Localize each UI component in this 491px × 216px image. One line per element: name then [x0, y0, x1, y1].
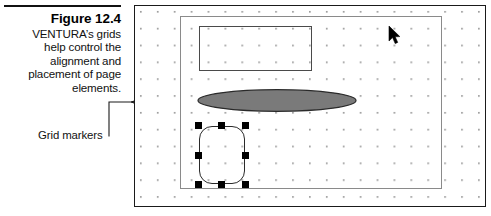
selection-handle-top-left[interactable] [195, 122, 202, 129]
grid-markers-label: Grid markers [38, 129, 103, 141]
caption-line: alignment and [4, 54, 121, 67]
selection-handle-middle-left[interactable] [195, 152, 202, 159]
selection-handle-bottom-center[interactable] [218, 181, 225, 188]
selection-handle-top-center[interactable] [218, 122, 225, 129]
figure-illustration: Figure 12.4 VENTURA’s grids help control… [0, 0, 491, 216]
selection-handle-bottom-right[interactable] [242, 181, 249, 188]
document-page-frame[interactable] [134, 5, 486, 207]
selection-handle-middle-right[interactable] [242, 152, 249, 159]
rounded-rectangle-graphic[interactable] [195, 122, 249, 188]
ellipse-graphic[interactable] [197, 89, 357, 112]
caption-line: VENTURA’s grids [4, 27, 121, 40]
caption-line: placement of page [4, 67, 121, 80]
caption-line: help control the [4, 40, 121, 53]
figure-caption-text: VENTURA’s grids help control the alignme… [4, 27, 121, 94]
mouse-pointer-icon [388, 25, 402, 45]
figure-number-label: Figure 12.4 [4, 11, 121, 26]
rounded-rectangle-outline [199, 126, 245, 184]
selection-handle-top-right[interactable] [242, 122, 249, 129]
figure-caption-block: Figure 12.4 VENTURA’s grids help control… [4, 5, 121, 94]
selection-handle-bottom-left[interactable] [195, 181, 202, 188]
text-frame-rectangle[interactable] [199, 26, 312, 71]
caption-rule [4, 5, 121, 7]
